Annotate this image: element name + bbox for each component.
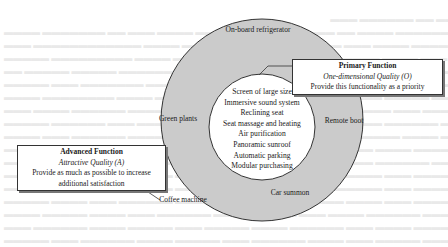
outer-feature-right: Remote boot — [325, 116, 364, 125]
inner-feature: Seat massage and heating — [213, 119, 311, 130]
inner-feature: Panoramic sunroof — [213, 140, 311, 151]
inner-feature: Reclining seat — [213, 108, 311, 119]
callout-quality: Attractive Quality (A) — [21, 158, 162, 169]
inner-feature: Immersive sound system — [213, 98, 311, 109]
callout-description: Provide this functionality as a priority — [296, 82, 439, 93]
outer-feature-bottom-left: Coffee machine — [159, 195, 207, 204]
advanced-connector-line-lower — [145, 190, 160, 200]
inner-feature: Automatic parking — [213, 151, 311, 162]
outer-feature-left: Green plants — [159, 114, 197, 123]
callout-quality: One-dimensional Quality (O) — [296, 72, 439, 83]
callout-title: Advanced Function — [21, 147, 162, 158]
primary-function-callout: Primary Function One-dimensional Quality… — [292, 59, 443, 95]
inner-feature: Air purification — [213, 129, 311, 140]
callout-title: Primary Function — [296, 61, 439, 72]
inner-feature-list: Screen of large size Immersive sound sys… — [213, 87, 311, 172]
outer-feature-top: On-board refrigerator — [226, 25, 291, 34]
inner-feature: Modular purchasing — [213, 161, 311, 172]
callout-description: additional satisfaction — [21, 179, 162, 190]
outer-feature-bottom-right: Car summon — [271, 188, 310, 197]
advanced-function-callout: Advanced Function Attractive Quality (A)… — [17, 145, 166, 191]
callout-description: Provide as much as possible to increase — [21, 168, 162, 179]
